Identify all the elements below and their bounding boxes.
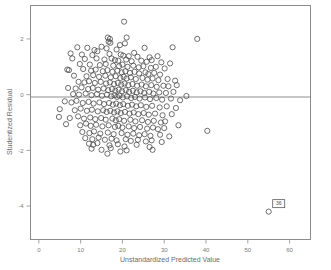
x-tick-label: 40: [203, 247, 210, 253]
data-point: [147, 144, 152, 149]
data-point: [78, 123, 83, 128]
data-point: [92, 80, 97, 85]
data-point: [132, 125, 137, 130]
data-point: [145, 77, 150, 82]
data-point: [110, 69, 115, 74]
data-point: [143, 139, 148, 144]
data-point: [145, 126, 150, 131]
data-point: [139, 118, 144, 123]
data-point: [88, 115, 93, 120]
data-point: [91, 129, 96, 134]
data-point: [131, 131, 136, 136]
data-point: [116, 58, 121, 63]
data-point: [133, 76, 138, 81]
data-point: [149, 83, 154, 88]
x-tick-label: 10: [77, 247, 84, 253]
data-point: [90, 137, 95, 142]
data-point: [94, 56, 99, 61]
data-point: [117, 42, 122, 47]
data-point: [99, 93, 104, 98]
data-point: [78, 106, 83, 111]
data-point: [118, 75, 123, 80]
data-points-layer: [56, 19, 271, 214]
data-point: [114, 47, 119, 52]
data-point: [74, 98, 79, 103]
x-tick-label: 60: [286, 247, 293, 253]
data-point: [155, 54, 160, 59]
data-point: [159, 60, 164, 65]
data-point: [174, 83, 179, 88]
plot-frame: [31, 6, 311, 240]
data-point: [112, 124, 117, 129]
data-point: [81, 66, 86, 71]
data-point: [108, 40, 113, 45]
data-point: [162, 125, 167, 130]
data-point: [67, 115, 72, 120]
data-point: [72, 108, 77, 113]
data-point: [153, 64, 158, 69]
data-point: [144, 59, 149, 64]
data-point: [118, 149, 123, 154]
data-point: [122, 19, 127, 24]
data-point: [170, 45, 175, 50]
data-point: [152, 111, 157, 116]
data-point: [73, 86, 78, 91]
data-point: [103, 117, 108, 122]
data-point: [76, 79, 81, 84]
data-point: [137, 71, 142, 76]
data-point: [94, 122, 99, 127]
data-point: [57, 107, 62, 112]
x-axis-ticks: 0102030405060: [37, 240, 293, 253]
x-tick-label: 20: [119, 247, 126, 253]
data-point: [166, 84, 171, 89]
data-point: [155, 127, 160, 132]
data-point: [266, 209, 271, 214]
data-point: [81, 116, 86, 121]
data-point: [157, 90, 162, 95]
data-point: [150, 147, 155, 152]
data-point: [146, 112, 151, 117]
x-axis-title: Unstandardized Predicted Value: [120, 256, 220, 263]
data-point: [106, 123, 111, 128]
data-point: [134, 142, 139, 147]
data-point: [91, 101, 96, 106]
data-point: [68, 51, 73, 56]
data-point: [173, 105, 178, 110]
data-point: [66, 85, 71, 90]
data-point: [163, 90, 168, 95]
data-point: [169, 112, 174, 117]
data-point: [142, 45, 147, 50]
data-point: [122, 118, 127, 123]
data-point: [91, 73, 96, 78]
data-point: [122, 41, 127, 46]
residual-scatter-chart: 0102030405060 20-2-4 36 Unstandardized P…: [0, 0, 331, 270]
data-point: [87, 62, 92, 67]
data-point: [151, 118, 156, 123]
data-point: [124, 35, 129, 40]
data-point: [56, 114, 61, 119]
data-point: [167, 134, 172, 139]
data-point: [178, 98, 183, 103]
data-point: [76, 114, 81, 119]
data-point: [150, 125, 155, 130]
data-point: [100, 124, 105, 129]
data-point: [131, 63, 136, 68]
data-point: [95, 49, 100, 54]
data-point: [148, 65, 153, 70]
data-point: [137, 124, 142, 129]
data-point: [79, 85, 84, 90]
data-point: [167, 61, 172, 66]
y-axis-title: Studentized Residual: [6, 88, 13, 155]
y-tick-label: 0: [20, 92, 24, 98]
data-point: [108, 75, 113, 80]
scatterplot-panel: 0102030405060 20-2-4 36 Unstandardized P…: [0, 0, 331, 270]
y-tick-label: -2: [18, 148, 24, 154]
y-tick-label: -4: [18, 203, 24, 209]
data-point: [109, 136, 114, 141]
data-point: [92, 47, 97, 52]
data-point: [77, 61, 82, 66]
data-point: [176, 123, 181, 128]
x-tick-label: 30: [161, 247, 168, 253]
data-point: [80, 129, 85, 134]
data-point: [104, 46, 109, 51]
